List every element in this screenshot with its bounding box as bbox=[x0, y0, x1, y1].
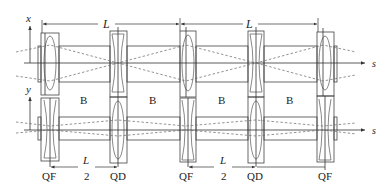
dipole-label: B bbox=[286, 94, 293, 106]
qf-box bbox=[317, 32, 334, 96]
dipole-box bbox=[127, 46, 180, 82]
half-period-denominator: 2 bbox=[84, 170, 90, 182]
period-dimension-top: L L bbox=[42, 17, 318, 33]
half-period-numerator: L bbox=[82, 154, 89, 166]
quad-label: QD bbox=[110, 170, 126, 182]
s-axis-label-lower: s bbox=[372, 125, 376, 136]
qf-box bbox=[180, 31, 196, 97]
half-period-numerator: L bbox=[219, 154, 226, 166]
dipole-box bbox=[264, 46, 317, 82]
quad-label: QF bbox=[318, 170, 332, 182]
quad-label: QD bbox=[247, 170, 263, 182]
dipole-label: B bbox=[149, 94, 156, 106]
period-label: L bbox=[245, 17, 253, 31]
qf-box bbox=[317, 96, 334, 162]
qd-box bbox=[110, 31, 127, 97]
quad-label: QF bbox=[42, 170, 56, 182]
dipole-label: B bbox=[80, 94, 87, 106]
s-axis-label-upper: s bbox=[372, 58, 376, 69]
x-axis-label: x bbox=[25, 12, 31, 24]
dipole-label: B bbox=[218, 94, 225, 106]
half-period-denominator: 2 bbox=[221, 170, 227, 182]
y-axis-label: y bbox=[25, 83, 31, 95]
fodo-lattice-diagram: x s y bbox=[0, 0, 391, 194]
dipole-box bbox=[196, 117, 248, 140]
dipole-box bbox=[264, 117, 317, 140]
dipole-box bbox=[59, 117, 110, 140]
dipole-box bbox=[127, 117, 180, 140]
dipole-box bbox=[196, 46, 248, 82]
beam-envelope-ray bbox=[16, 130, 356, 136]
quad-label: QF bbox=[179, 170, 193, 182]
period-label: L bbox=[102, 17, 110, 31]
beam-envelope-ray bbox=[16, 120, 356, 126]
x-plane-row: x s bbox=[16, 12, 376, 97]
